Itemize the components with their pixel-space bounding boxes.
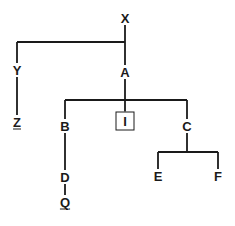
node-q: Q — [60, 196, 70, 209]
node-f: F — [214, 170, 222, 183]
node-y: Y — [13, 64, 22, 77]
node-a: A — [120, 66, 129, 79]
node-i-label: I — [123, 115, 127, 128]
node-e: E — [154, 170, 163, 183]
node-b: B — [60, 120, 69, 133]
node-x: X — [121, 12, 130, 25]
node-i-boxed: I — [116, 112, 135, 131]
node-c: C — [182, 120, 191, 133]
node-z: Z — [13, 116, 21, 129]
family-tree-diagram: X Y Z A B I C D Q E F — [0, 0, 235, 226]
node-d: D — [60, 171, 69, 184]
